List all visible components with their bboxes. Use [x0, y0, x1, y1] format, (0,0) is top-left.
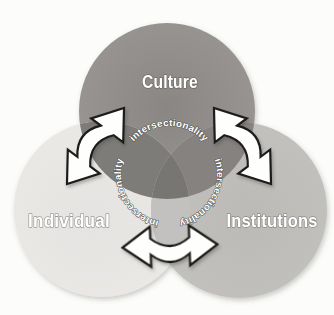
venn-diagram-figure: intersectionality intersectionality inte…: [0, 0, 334, 315]
venn-diagram-svg: intersectionality intersectionality inte…: [0, 0, 334, 315]
institutions-label: Institutions: [227, 210, 318, 231]
culture-label: Culture: [142, 71, 198, 92]
individual-label: Individual: [28, 210, 110, 231]
